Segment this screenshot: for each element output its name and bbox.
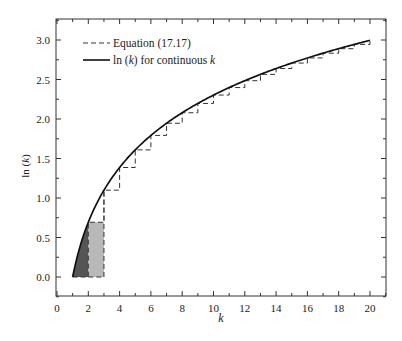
y-tick-label: 2.5 <box>36 74 50 86</box>
step-line <box>73 40 370 277</box>
x-tick-label: 20 <box>365 302 377 314</box>
y-tick-label: 3.0 <box>36 34 50 46</box>
chart: 02468101214161820 0.00.51.01.52.02.53.0 … <box>0 0 402 341</box>
x-tick-label: 16 <box>302 302 314 314</box>
x-tick-label: 12 <box>239 302 250 314</box>
y-tick-label: 0.5 <box>36 232 50 244</box>
x-tick-label: 2 <box>86 302 92 314</box>
y-tick-label: 0.0 <box>36 271 50 283</box>
y-tick-label: 1.0 <box>36 192 50 204</box>
y-axis-label: ln (k) <box>19 154 32 178</box>
x-tick-label: 18 <box>333 302 345 314</box>
x-tick-label: 4 <box>117 302 123 314</box>
x-tick-label: 14 <box>271 302 283 314</box>
step-series-equation-17-17 <box>73 40 370 277</box>
y-tick-label: 1.5 <box>36 153 50 165</box>
y-tick-label: 2.0 <box>36 113 50 125</box>
shaded-rectangle <box>88 222 104 277</box>
legend-label-equation: Equation (17.17) <box>113 37 191 50</box>
x-axis-label: k <box>218 311 224 325</box>
x-tick-label: 8 <box>179 302 185 314</box>
legend-label-ln-k: ln (k) for continuous k <box>113 54 216 67</box>
curve-series-ln-k <box>73 40 370 277</box>
x-tick-label: 0 <box>54 302 60 314</box>
x-axis-ticks: 02468101214161820 <box>54 19 385 314</box>
legend: Equation (17.17) ln (k) for continuous k <box>83 37 216 67</box>
ln-k-curve <box>73 40 370 277</box>
x-tick-label: 6 <box>148 302 154 314</box>
